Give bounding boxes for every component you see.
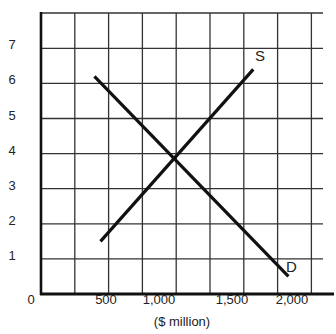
y-tick-label: 6 [8,72,15,87]
y-tick-label: 4 [8,143,15,158]
x-tick-label: 0 [27,292,34,307]
curves: SD [94,47,297,276]
y-tick-label: 5 [8,108,15,123]
grid-lines [41,13,323,294]
y-tick-label: 2 [8,213,15,228]
y-tick-label: 3 [8,178,15,193]
supply-demand-chart: SD 123456705001,0001,5002,000 ($ million… [0,0,336,334]
demand-label: D [286,258,297,275]
x-tick-label: 2,000 [276,292,309,307]
x-tick-label: 1,500 [216,292,249,307]
y-tick-label: 7 [8,37,15,52]
x-tick-label: 500 [95,292,117,307]
y-tick-label: 1 [8,248,15,263]
supply-label: S [255,47,265,64]
tick-labels: 123456705001,0001,5002,000 [8,37,308,307]
x-tick-label: 1,000 [143,292,176,307]
demand-curve [94,76,288,276]
x-axis-title: ($ million) [154,314,210,329]
